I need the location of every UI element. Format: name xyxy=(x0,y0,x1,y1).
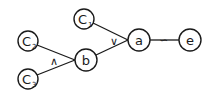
svg-text:3: 3 xyxy=(32,81,36,89)
node-e: e xyxy=(179,29,201,51)
node-c3: C 3 xyxy=(18,69,38,89)
node-a: a xyxy=(128,29,150,51)
tilde-operator-label: ∽ xyxy=(159,34,168,47)
node-b: b xyxy=(75,49,97,71)
node-c2: C 2 xyxy=(18,31,38,51)
logic-diagram: ∧ ∨ ∽ C 1 C 2 C 3 b a e xyxy=(0,0,212,101)
svg-text:a: a xyxy=(135,33,143,48)
svg-text:b: b xyxy=(82,53,90,68)
node-c1: C 1 xyxy=(74,9,94,29)
svg-text:C: C xyxy=(22,72,31,87)
svg-text:C: C xyxy=(78,12,87,27)
svg-text:2: 2 xyxy=(32,43,36,51)
svg-text:C: C xyxy=(22,34,31,49)
or-operator-label: ∨ xyxy=(110,35,118,48)
and-operator-label: ∧ xyxy=(50,55,58,68)
svg-text:1: 1 xyxy=(88,21,92,29)
svg-text:e: e xyxy=(186,33,194,48)
